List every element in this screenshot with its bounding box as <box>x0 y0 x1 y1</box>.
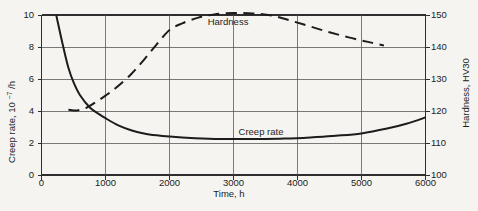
left-axis-title: Creep rate, 10 −7 /h <box>3 81 18 163</box>
creep-rate-curve <box>56 15 425 139</box>
x-axis-tick-label: 1000 <box>95 177 116 188</box>
x-axis-tick-label: 0 <box>39 177 44 188</box>
hardness-curve <box>68 13 384 110</box>
creep-rate-curve-label: Creep rate <box>239 126 284 137</box>
right-axis-title: Hardness, HV30 <box>460 58 471 128</box>
right-axis-tick-label: 140 <box>431 41 447 52</box>
x-axis-title: Time, h <box>213 188 244 199</box>
x-axis-tick-label: 5000 <box>351 177 372 188</box>
left-axis-tick-label: 6 <box>29 73 34 84</box>
left-axis-title-superscript: −7 <box>6 92 13 100</box>
x-axis-tick-label: 3000 <box>223 177 244 188</box>
x-axis-tick-label: 6000 <box>415 177 436 188</box>
x-axis-tick-label: 4000 <box>287 177 308 188</box>
left-axis-tick-label: 0 <box>29 169 34 180</box>
right-axis-tick-label: 150 <box>431 9 447 20</box>
left-axis-tick-label: 10 <box>23 9 34 20</box>
right-axis-tick-label: 120 <box>431 105 447 116</box>
left-axis-tick-label: 4 <box>29 105 34 116</box>
left-axis-tick-label: 2 <box>29 137 34 148</box>
x-axis-tick-label: 2000 <box>159 177 180 188</box>
right-axis-tick-label: 130 <box>431 73 447 84</box>
right-axis-tick-label: 110 <box>431 137 446 148</box>
grid-layer <box>38 15 430 180</box>
labels-layer: 0100211041206130814010150010002000300040… <box>23 9 446 188</box>
curves-layer <box>56 13 425 139</box>
left-axis-title-main: Creep rate, 10 <box>6 102 17 163</box>
chart-canvas: 0100211041206130814010150010002000300040… <box>0 0 478 211</box>
chart-figure: 0100211041206130814010150010002000300040… <box>0 0 478 211</box>
left-axis-title-suffix: /h <box>6 81 17 89</box>
hardness-curve-label: Hardness <box>208 16 249 27</box>
left-axis-tick-label: 8 <box>29 41 34 52</box>
